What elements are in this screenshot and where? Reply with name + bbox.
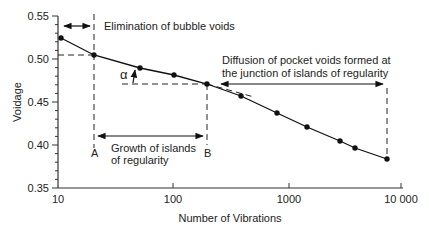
annotation-arrows [64, 26, 383, 136]
x-tick-label: 10 000 [384, 193, 418, 205]
x-tick-label: 1000 [277, 193, 301, 205]
angle-arrow [133, 70, 135, 83]
guide-lines [58, 14, 387, 159]
y-axis-title: Voidage [11, 82, 23, 122]
y-tick-label: 0.50 [28, 53, 49, 65]
x-tick-label: 10 [52, 193, 64, 205]
alpha-angle-label: α [120, 67, 128, 82]
data-point [204, 81, 209, 86]
growth-label-line1: Growth of islands [111, 142, 196, 154]
data-point [137, 65, 142, 70]
diffusion-label-line1: Diffusion of pocket voids formed at [222, 54, 391, 66]
voidage-chart: 0.55 0.50 0.45 0.40 0.35 10 100 1000 10 … [0, 0, 429, 236]
marker-a-label: A [91, 147, 99, 159]
data-point [171, 72, 176, 77]
y-tick-label: 0.55 [28, 10, 49, 22]
y-tick-label: 0.35 [28, 182, 49, 194]
elimination-label: Elimination of bubble voids [104, 20, 235, 32]
x-axis-ticks [173, 183, 401, 188]
data-point [304, 124, 309, 129]
data-point [91, 52, 96, 57]
data-point [384, 156, 389, 161]
data-point [352, 145, 357, 150]
marker-b-label: B [204, 147, 211, 159]
y-tick-label: 0.40 [28, 139, 49, 151]
data-point [238, 93, 243, 98]
x-axis-labels: 10 100 1000 10 000 [52, 193, 418, 205]
diffusion-label-line2: the junction of islands of regularity [222, 67, 389, 79]
data-point [274, 110, 279, 115]
y-axis-labels: 0.55 0.50 0.45 0.40 0.35 [28, 10, 49, 194]
x-tick-label: 100 [164, 193, 182, 205]
y-axis-ticks [52, 16, 58, 188]
growth-label-line2: of regularity [111, 154, 169, 166]
y-tick-label: 0.45 [28, 96, 49, 108]
data-point [58, 35, 63, 40]
x-axis-title: Number of Vibrations [178, 212, 282, 224]
data-point [337, 138, 342, 143]
axes [58, 16, 403, 188]
